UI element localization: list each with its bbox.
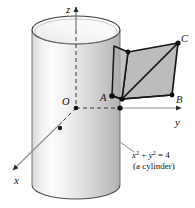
point-C-label: C (181, 33, 189, 44)
cylinder-equation: x2 + y2 = 4 (131, 149, 170, 160)
point-B-label: B (176, 94, 183, 105)
z-axis-label: z (65, 3, 71, 15)
cylinder-body (32, 30, 120, 199)
patch-top-left-vertex-dot (126, 50, 131, 55)
surface-patch (109, 40, 180, 101)
x-axis-label: x (13, 174, 19, 186)
patch-inner-vertex-dot (119, 96, 124, 101)
point-A-dot (109, 93, 115, 99)
equation-equals-four: = 4 (156, 150, 171, 160)
y-axis-cylinder-intersection-dot (117, 105, 122, 110)
y-axis-label: y (174, 116, 180, 128)
origin-dot (74, 106, 79, 111)
equation-plus-sign: + (139, 150, 149, 160)
cylinder-figure: z y x O A B C x2 + y2 = 4 (a cylinder) (0, 0, 195, 208)
point-B-dot (170, 93, 175, 98)
point-A-label: A (99, 92, 107, 103)
cylinder-caption: (a cylinder) (133, 161, 175, 171)
point-C-dot (175, 40, 180, 45)
figure-canvas: z y x O A B C x2 + y2 = 4 (a cylinder) (0, 0, 195, 208)
origin-label: O (62, 96, 70, 107)
x-axis-tick-dot (58, 126, 62, 130)
